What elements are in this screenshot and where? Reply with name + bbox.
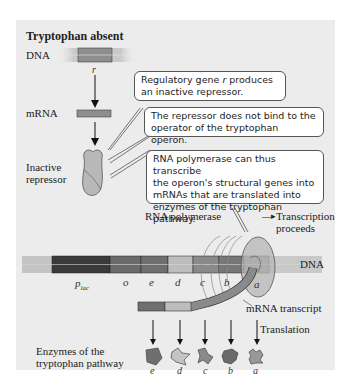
mrna-transcript [138,268,253,311]
dna-label-main: DNA [300,258,324,271]
inactive-repressor-shape [83,150,103,195]
r-gene-label: r [92,64,96,75]
dna-label-top: DNA [26,49,50,62]
callout-repressor-no-bind: The repressor does not bind to the opera… [144,107,324,137]
arrow-right-icon: —▸ [262,210,276,223]
arrow-down-icon [91,138,99,146]
operator-label: o [123,276,129,288]
gene-a-label: a [254,278,260,290]
transcription-proceeds-label-2: proceeds [276,222,315,235]
gene-e-label: e [149,276,154,288]
translation-arrows [150,320,260,345]
inactive-repressor-label-2: repressor [26,173,66,186]
rna-polymerase-label: RNA polymerase [145,210,221,223]
promoter-label: plac [75,277,89,292]
enzyme-label-e: e [150,365,154,376]
enzyme-c [198,348,213,364]
callout-rna-polymerase: RNA polymerase can thus transcribe the o… [146,150,324,204]
enzyme-d [171,348,190,365]
callout-regulatory-gene: Regulatory gene r produces an inactive r… [134,71,286,101]
translation-label: Translation [260,323,310,336]
enzyme-b [222,349,238,364]
enzymes-label-2: tryptophan pathway [36,357,124,370]
enzyme-label-d: d [177,365,182,376]
enzyme-a [249,349,263,364]
gene-b-label: b [224,276,230,288]
operon-dna [22,256,322,273]
gene-c-label: c [200,276,205,288]
enzyme-e [146,348,162,365]
gene-d-label: d [175,276,181,288]
enzyme-label-c: c [203,365,207,376]
arrow-down-icon [91,100,99,108]
enzyme-label-a: a [253,365,258,376]
mrna-transcript-label: mRNA transcript [246,302,321,315]
diagram-title: Tryptophan absent [26,29,123,44]
mrna-bar [77,110,111,117]
regulatory-dna [58,48,136,62]
mrna-label: mRNA [26,107,58,120]
enzyme-shapes [146,348,263,365]
enzyme-label-b: b [228,365,233,376]
